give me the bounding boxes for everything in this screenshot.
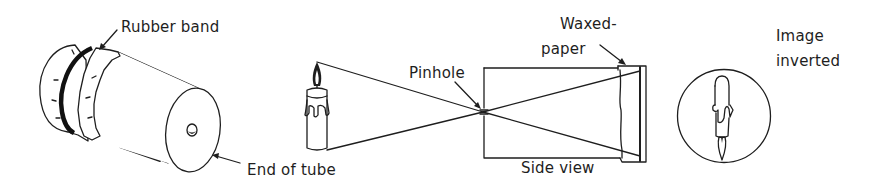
- label-pinhole: Pinhole: [409, 66, 465, 81]
- tube-illustration: [40, 30, 240, 175]
- label-rubber-band: Rubber band: [121, 20, 219, 35]
- light-rays: [317, 62, 640, 156]
- candle-object: [305, 62, 329, 150]
- label-waxed-paper-line2: paper: [541, 42, 586, 57]
- label-side-view: Side view: [521, 161, 595, 176]
- label-end-of-tube: End of tube: [247, 163, 336, 178]
- camera-side-view: [455, 45, 646, 162]
- inverted-image: [678, 70, 771, 163]
- label-waxed-paper-line1: Waxed-: [560, 17, 617, 32]
- label-image: Image: [776, 29, 824, 44]
- label-inverted: inverted: [776, 54, 840, 69]
